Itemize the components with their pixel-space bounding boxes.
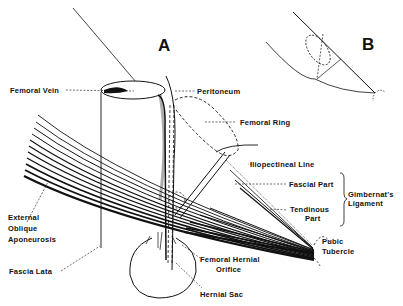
gimbernat-bracket <box>340 173 347 226</box>
label-pubic: Pubic <box>322 237 343 246</box>
label-external: External <box>8 213 39 222</box>
panel-b-label: B <box>362 35 374 55</box>
label-aponeurosis: Aponeurosis <box>8 235 56 244</box>
label-gimbernats: Gimbernat's <box>348 190 394 199</box>
label-iliopectineal-line: Iliopectineal Line <box>250 160 314 169</box>
label-fascial-part: Fascial Part <box>289 180 334 189</box>
panel-b-diagram <box>266 12 385 101</box>
label-tendinous-part: Part <box>305 214 320 223</box>
hernial-sac <box>130 238 196 298</box>
label-femoral-vein: Femoral Vein <box>10 86 59 95</box>
label-hernial-sac: Hernial Sac <box>200 290 243 299</box>
label-tubercle: Tubercle <box>322 247 354 256</box>
label-oblique: Oblique <box>8 224 37 233</box>
label-peritoneum: Peritoneum <box>197 87 240 96</box>
label-tendinous: Tendinous <box>290 205 329 214</box>
label-ligament: Ligament <box>348 199 383 208</box>
label-fascia-lata: Fascia Lata <box>9 267 52 276</box>
label-femoral-ring: Femoral Ring <box>240 118 290 127</box>
femoral-vein-cylinder <box>101 81 166 260</box>
label-femoral-hernial: Femoral Hernial <box>200 255 260 264</box>
label-orifice: Orifice <box>216 265 241 274</box>
panel-a-label: A <box>158 36 170 56</box>
inguinal-curve-line <box>73 8 136 82</box>
